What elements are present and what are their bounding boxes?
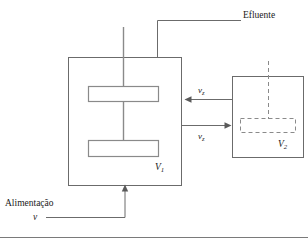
feed-label: Alimentação [5,199,54,209]
feed-inlet-line [46,190,125,218]
exchange-flow-outbound-label: vz [198,132,205,142]
feed-flow-symbol-label: v [33,213,37,223]
exchange-flow-inbound-label: vz [198,86,205,96]
impeller-blade-dead-zone [241,119,296,133]
exchange-flow-outbound-subscript: z [202,135,205,142]
effluent-label: Efluente [243,11,275,21]
main-vessel-v1-label: V1 [155,163,164,174]
impeller-blade-upper [89,87,159,102]
dead-zone-vessel-v2-label: V2 [278,140,287,151]
main-vessel-v1-body [69,58,182,186]
exchange-flow-inbound-subscript: z [202,89,205,96]
impeller-blade-lower [89,141,159,157]
main-vessel-subscript: 1 [161,166,164,173]
feed-flow-symbol: v [33,212,37,222]
effluent-outlet-line [158,21,242,58]
exchange-flow-outbound-arrowhead [225,122,232,128]
exchange-flow-inbound-arrowhead [185,96,192,102]
dead-zone-vessel-subscript: 2 [284,143,287,150]
